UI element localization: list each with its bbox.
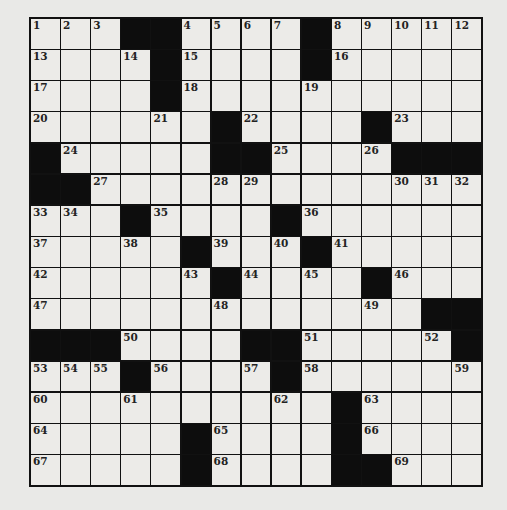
grid-cell[interactable]: [121, 268, 150, 298]
grid-cell[interactable]: [452, 268, 481, 298]
grid-cell[interactable]: [452, 81, 481, 111]
grid-cell[interactable]: [91, 50, 120, 80]
grid-cell[interactable]: 52: [422, 331, 451, 361]
grid-cell[interactable]: [452, 237, 481, 267]
grid-cell[interactable]: 48: [212, 299, 241, 329]
grid-cell[interactable]: 60: [31, 393, 60, 423]
grid-cell[interactable]: 14: [121, 50, 150, 80]
grid-cell[interactable]: [302, 112, 331, 142]
grid-cell[interactable]: 53: [31, 362, 60, 392]
grid-cell[interactable]: 66: [362, 424, 391, 454]
grid-cell[interactable]: [91, 268, 120, 298]
grid-cell[interactable]: [392, 237, 421, 267]
grid-cell[interactable]: [422, 424, 451, 454]
grid-cell[interactable]: [392, 393, 421, 423]
grid-cell[interactable]: 7: [272, 19, 301, 49]
grid-cell[interactable]: [242, 237, 271, 267]
grid-cell[interactable]: 69: [392, 455, 421, 485]
grid-cell[interactable]: [332, 144, 361, 174]
grid-cell[interactable]: [332, 81, 361, 111]
grid-cell[interactable]: [151, 237, 180, 267]
grid-cell[interactable]: [61, 268, 90, 298]
grid-cell[interactable]: [242, 299, 271, 329]
grid-cell[interactable]: 61: [121, 393, 150, 423]
grid-cell[interactable]: 51: [302, 331, 331, 361]
grid-cell[interactable]: 42: [31, 268, 60, 298]
grid-cell[interactable]: [91, 144, 120, 174]
grid-cell[interactable]: [272, 112, 301, 142]
grid-cell[interactable]: [422, 112, 451, 142]
grid-cell[interactable]: 16: [332, 50, 361, 80]
grid-cell[interactable]: [91, 237, 120, 267]
grid-cell[interactable]: 25: [272, 144, 301, 174]
grid-cell[interactable]: [332, 206, 361, 236]
grid-cell[interactable]: [302, 455, 331, 485]
grid-cell[interactable]: [61, 81, 90, 111]
grid-cell[interactable]: 38: [121, 237, 150, 267]
grid-cell[interactable]: [332, 331, 361, 361]
grid-cell[interactable]: [302, 144, 331, 174]
grid-cell[interactable]: 26: [362, 144, 391, 174]
grid-cell[interactable]: 9: [362, 19, 391, 49]
grid-cell[interactable]: [212, 50, 241, 80]
grid-cell[interactable]: [121, 424, 150, 454]
grid-cell[interactable]: [212, 393, 241, 423]
grid-cell[interactable]: 43: [182, 268, 211, 298]
grid-cell[interactable]: [91, 81, 120, 111]
grid-cell[interactable]: 64: [31, 424, 60, 454]
grid-cell[interactable]: [422, 81, 451, 111]
grid-cell[interactable]: [91, 112, 120, 142]
grid-cell[interactable]: 41: [332, 237, 361, 267]
grid-cell[interactable]: [151, 175, 180, 205]
grid-cell[interactable]: 40: [272, 237, 301, 267]
grid-cell[interactable]: [392, 331, 421, 361]
grid-cell[interactable]: [272, 175, 301, 205]
grid-cell[interactable]: 56: [151, 362, 180, 392]
grid-cell[interactable]: 46: [392, 268, 421, 298]
grid-cell[interactable]: 34: [61, 206, 90, 236]
grid-cell[interactable]: 54: [61, 362, 90, 392]
grid-cell[interactable]: [452, 206, 481, 236]
grid-cell[interactable]: [452, 393, 481, 423]
grid-cell[interactable]: 35: [151, 206, 180, 236]
grid-cell[interactable]: 27: [91, 175, 120, 205]
grid-cell[interactable]: 45: [302, 268, 331, 298]
grid-cell[interactable]: 30: [392, 175, 421, 205]
grid-cell[interactable]: [151, 424, 180, 454]
grid-cell[interactable]: [61, 299, 90, 329]
grid-cell[interactable]: 65: [212, 424, 241, 454]
grid-cell[interactable]: [212, 206, 241, 236]
grid-cell[interactable]: 3: [91, 19, 120, 49]
grid-cell[interactable]: [302, 175, 331, 205]
grid-cell[interactable]: [182, 144, 211, 174]
grid-cell[interactable]: [61, 393, 90, 423]
grid-cell[interactable]: [452, 455, 481, 485]
grid-cell[interactable]: [182, 112, 211, 142]
grid-cell[interactable]: 23: [392, 112, 421, 142]
grid-cell[interactable]: [212, 331, 241, 361]
grid-cell[interactable]: 68: [212, 455, 241, 485]
grid-cell[interactable]: [61, 455, 90, 485]
grid-cell[interactable]: [362, 81, 391, 111]
grid-cell[interactable]: [91, 424, 120, 454]
grid-cell[interactable]: [362, 362, 391, 392]
grid-cell[interactable]: 6: [242, 19, 271, 49]
grid-cell[interactable]: 58: [302, 362, 331, 392]
grid-cell[interactable]: [452, 112, 481, 142]
grid-cell[interactable]: [121, 299, 150, 329]
grid-cell[interactable]: [242, 424, 271, 454]
grid-cell[interactable]: [151, 144, 180, 174]
grid-cell[interactable]: [91, 455, 120, 485]
grid-cell[interactable]: [452, 50, 481, 80]
grid-cell[interactable]: [422, 268, 451, 298]
grid-cell[interactable]: 32: [452, 175, 481, 205]
grid-cell[interactable]: [121, 144, 150, 174]
grid-cell[interactable]: [362, 331, 391, 361]
grid-cell[interactable]: 24: [61, 144, 90, 174]
grid-cell[interactable]: 44: [242, 268, 271, 298]
grid-cell[interactable]: 20: [31, 112, 60, 142]
grid-cell[interactable]: [422, 362, 451, 392]
grid-cell[interactable]: [91, 393, 120, 423]
grid-cell[interactable]: 1: [31, 19, 60, 49]
grid-cell[interactable]: 12: [452, 19, 481, 49]
